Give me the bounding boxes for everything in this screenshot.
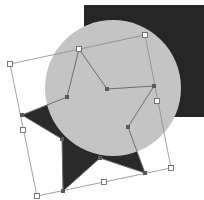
anchor-point[interactable] (126, 125, 130, 129)
anchor-point[interactable] (98, 156, 102, 160)
anchor-point[interactable] (152, 84, 156, 88)
handle-bottom-left[interactable] (35, 194, 40, 199)
anchor-point[interactable] (61, 189, 65, 193)
handle-right-middle[interactable] (155, 99, 160, 104)
anchor-point[interactable] (143, 171, 147, 175)
handle-top-left[interactable] (8, 62, 13, 67)
handle-bottom-middle[interactable] (102, 180, 107, 185)
artwork (0, 0, 204, 200)
anchor-point[interactable] (65, 95, 69, 99)
anchor-point[interactable] (105, 87, 109, 91)
handle-top-middle[interactable] (77, 47, 82, 52)
handle-left-middle[interactable] (21, 128, 26, 133)
anchor-point[interactable] (60, 137, 64, 141)
anchor-point[interactable] (20, 113, 24, 117)
handle-top-right[interactable] (143, 33, 148, 38)
gray-circle-shape[interactable] (45, 20, 181, 156)
drawing-canvas[interactable] (0, 0, 204, 200)
handle-bottom-right[interactable] (169, 166, 174, 171)
